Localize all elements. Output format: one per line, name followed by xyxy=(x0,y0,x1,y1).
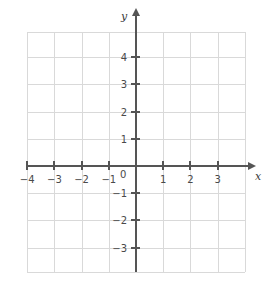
grid-line-vertical xyxy=(109,32,110,272)
x-axis-tick-label: −3 xyxy=(47,174,62,185)
x-axis-tick xyxy=(81,161,83,170)
grid-line-vertical xyxy=(190,32,191,272)
y-axis-tick xyxy=(131,219,140,221)
y-axis-tick-label: −3 xyxy=(112,242,127,253)
x-axis-tick-label: 1 xyxy=(160,174,166,185)
x-axis-tick-label: 2 xyxy=(187,174,193,185)
grid-line-vertical xyxy=(82,32,83,272)
x-axis-arrowhead xyxy=(248,162,256,170)
x-axis-label: x xyxy=(255,171,261,182)
x-axis-tick-label: −1 xyxy=(101,174,116,185)
coordinate-plane-figure: −4−3−2−11234321−1−2−3 0 y x xyxy=(0,0,275,297)
grid-line-vertical xyxy=(163,32,164,272)
grid-line-vertical xyxy=(218,32,219,272)
y-axis-tick xyxy=(131,111,140,113)
y-axis-tick-label: 4 xyxy=(121,52,127,63)
y-axis-label: y xyxy=(121,11,127,22)
x-axis-tick-label: −4 xyxy=(20,174,35,185)
x-axis-tick xyxy=(217,161,219,170)
y-axis-tick xyxy=(131,192,140,194)
y-axis-line xyxy=(135,14,137,272)
x-axis-tick xyxy=(53,161,55,170)
y-axis-tick xyxy=(131,56,140,58)
grid-line-vertical xyxy=(27,32,28,272)
y-axis-tick-label: −2 xyxy=(112,215,127,226)
x-axis-tick-label: 3 xyxy=(214,174,220,185)
y-axis-tick xyxy=(131,138,140,140)
y-axis-arrowhead xyxy=(132,8,140,16)
x-axis-tick-label: −2 xyxy=(74,174,89,185)
grid-line-vertical xyxy=(245,32,246,272)
y-axis-tick xyxy=(131,83,140,85)
y-axis-tick-label: 1 xyxy=(121,133,127,144)
y-axis-tick-label: 2 xyxy=(121,106,127,117)
y-axis-tick xyxy=(131,247,140,249)
x-axis-tick xyxy=(26,161,28,170)
grid-border-horizontal xyxy=(27,272,245,273)
x-axis-tick xyxy=(162,161,164,170)
y-axis-tick-label: 3 xyxy=(121,79,127,90)
x-axis-tick xyxy=(108,161,110,170)
grid-line-vertical xyxy=(54,32,55,272)
x-axis-tick xyxy=(189,161,191,170)
origin-label: 0 xyxy=(120,169,126,180)
y-axis-tick-label: −1 xyxy=(112,188,127,199)
